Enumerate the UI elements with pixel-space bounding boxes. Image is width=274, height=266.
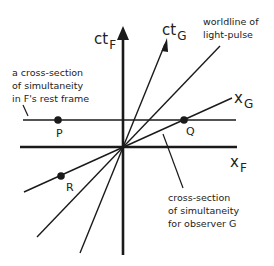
x-g-axis bbox=[24, 98, 232, 192]
rest-frame-note-line: a cross-section bbox=[12, 66, 89, 79]
rest-frame-note: a cross-section of simultaneity in F's r… bbox=[12, 66, 89, 105]
x-f-label: xF bbox=[230, 155, 247, 170]
ct-g-main: ct bbox=[162, 21, 176, 39]
observer-g-note-line: for observer G bbox=[168, 217, 239, 230]
ct-f-sub: F bbox=[109, 38, 116, 52]
ct-g-sub: G bbox=[177, 29, 186, 43]
light-pulse-note-line: worldline of bbox=[203, 15, 258, 28]
event-r-dot bbox=[57, 172, 65, 180]
ct-f-label: ctF bbox=[94, 32, 116, 47]
x-g-sub: G bbox=[244, 97, 253, 111]
ct-f-arrow-icon bbox=[117, 26, 129, 40]
observer-g-note-line: of simultaneity bbox=[168, 204, 239, 217]
event-p-dot bbox=[54, 116, 62, 124]
observer-g-note-line: cross-section bbox=[168, 191, 239, 204]
x-f-sub: F bbox=[240, 161, 247, 175]
event-p-label: P bbox=[56, 128, 63, 139]
light-pulse-note-line: light-pulse bbox=[203, 28, 258, 41]
x-g-main: x bbox=[234, 89, 243, 107]
rest-frame-note-line: of simultaneity bbox=[12, 79, 89, 92]
event-q-label: Q bbox=[186, 126, 195, 137]
observer-g-note: cross-section of simultaneity for observ… bbox=[168, 191, 239, 230]
x-f-main: x bbox=[230, 153, 239, 171]
ct-g-label: ctG bbox=[162, 23, 186, 38]
ct-g-arrow-icon bbox=[162, 38, 169, 52]
x-g-label: xG bbox=[234, 91, 253, 106]
ct-f-main: ct bbox=[94, 30, 108, 48]
event-q-dot bbox=[180, 116, 188, 124]
rest-frame-pointer bbox=[23, 105, 28, 116]
rest-frame-note-line: in F's rest frame bbox=[12, 92, 89, 105]
event-r-label: R bbox=[66, 182, 74, 193]
observer-g-pointer bbox=[163, 134, 183, 188]
light-pulse-note: worldline of light-pulse bbox=[203, 15, 258, 41]
